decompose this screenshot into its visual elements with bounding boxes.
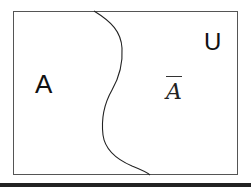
- universe-label: U: [204, 30, 221, 54]
- complement-label: A: [166, 76, 182, 103]
- set-a-label: A: [35, 71, 52, 97]
- bottom-rule: [0, 183, 251, 187]
